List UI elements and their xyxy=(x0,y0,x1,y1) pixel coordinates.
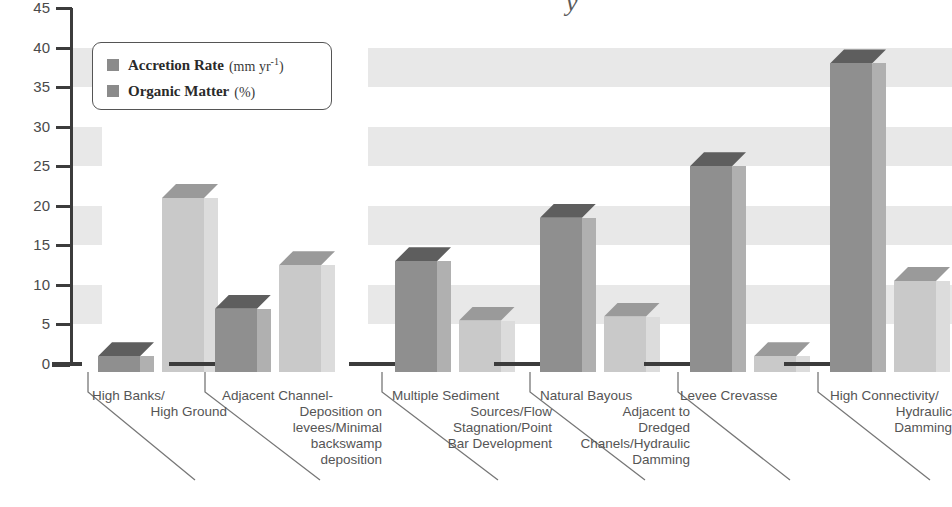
legend-swatch-organic-icon xyxy=(107,85,119,97)
legend: Accretion Rate (mm yr-1) Organic Matter … xyxy=(92,42,332,110)
category-label-line: Deposition on xyxy=(222,404,382,420)
category-label-line: Damming xyxy=(540,452,690,468)
category-label-line: Multiple Sediment xyxy=(392,388,552,404)
category-label-5: Levee Crevasse xyxy=(680,388,820,404)
category-label-line: Bar Development xyxy=(392,436,552,452)
category-baseline-stub xyxy=(52,362,82,366)
category-label-6: High Connectivity/HydraulicDamming xyxy=(830,388,952,436)
category-label-line: Stagnation/Point xyxy=(392,420,552,436)
category-label-line: High Ground xyxy=(92,404,227,420)
category-baseline-stub xyxy=(169,362,215,366)
category-label-line: Levee Crevasse xyxy=(680,388,820,404)
chart-canvas: y 454035302520151050 High Banks/High Gro… xyxy=(0,0,952,507)
category-baseline-stub xyxy=(784,362,830,366)
category-label-1: High Banks/High Ground xyxy=(92,388,227,420)
category-label-line: High Connectivity/ xyxy=(830,388,952,404)
legend-label-accretion-rate: Accretion Rate xyxy=(128,57,224,74)
legend-unit-organic-matter: (%) xyxy=(234,82,255,101)
category-baseline-stub xyxy=(349,362,395,366)
legend-label-organic-matter: Organic Matter xyxy=(128,83,229,100)
category-label-line: High Banks/ xyxy=(92,388,227,404)
category-baseline-stub xyxy=(494,362,540,366)
category-label-line: levees/Minimal xyxy=(222,420,382,436)
category-baseline-stub xyxy=(644,362,690,366)
category-label-line: Adjacent Channel- xyxy=(222,388,382,404)
legend-unit-accretion-rate: (mm yr-1) xyxy=(229,56,284,75)
category-label-2: Adjacent Channel-Deposition onlevees/Min… xyxy=(222,388,382,468)
category-label-line: Chanels/Hydraulic xyxy=(540,436,690,452)
category-label-line: Sources/Flow xyxy=(392,404,552,420)
legend-item-organic-matter: Organic Matter (%) xyxy=(107,78,331,104)
category-label-line: backswamp xyxy=(222,436,382,452)
category-label-line: Adjacent to xyxy=(540,404,690,420)
legend-swatch-accretion-icon xyxy=(107,59,119,71)
category-label-3: Multiple SedimentSources/FlowStagnation/… xyxy=(392,388,552,452)
category-label-4: Natural BayousAdjacent toDredgedChanels/… xyxy=(540,388,690,468)
category-label-line: Dredged xyxy=(540,420,690,436)
category-label-line: Hydraulic xyxy=(830,404,952,420)
category-label-line: Damming xyxy=(830,420,952,436)
legend-item-accretion-rate: Accretion Rate (mm yr-1) xyxy=(107,52,331,78)
category-label-line: deposition xyxy=(222,452,382,468)
category-label-line: Natural Bayous xyxy=(540,388,690,404)
